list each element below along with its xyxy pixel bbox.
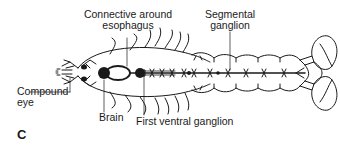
label-connective-esophagus: Connective around esophagus bbox=[78, 9, 178, 31]
nervous-system-diagram: Connective around esophagus Segmental ga… bbox=[0, 0, 340, 150]
label-first-ventral-ganglion: First ventral ganglion bbox=[136, 116, 233, 127]
label-compound-eye-line2: eye bbox=[17, 97, 68, 108]
label-compound-eye: Compound eye bbox=[17, 86, 68, 108]
label-segmental-ganglion: Segmental ganglion bbox=[198, 9, 262, 31]
panel-letter: C bbox=[17, 127, 26, 142]
label-connective-line2: esophagus bbox=[78, 20, 178, 31]
label-brain: Brain bbox=[99, 112, 124, 123]
label-segmental-line2: ganglion bbox=[198, 20, 262, 31]
